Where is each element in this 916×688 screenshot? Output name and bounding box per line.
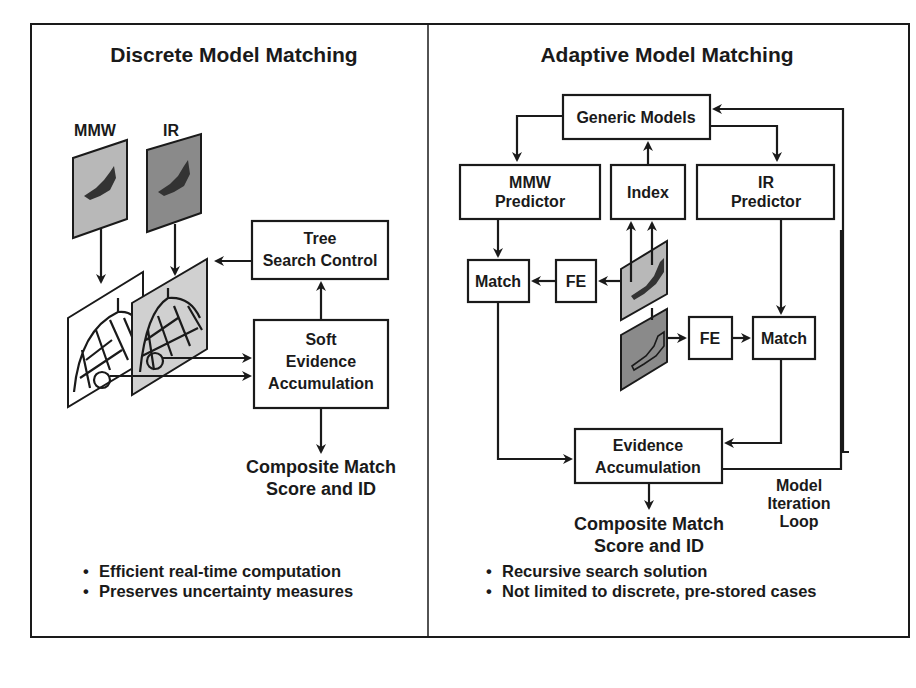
- match-right-label: Match: [761, 330, 807, 347]
- evidence-label-2: Accumulation: [595, 459, 701, 476]
- fe-left-label: FE: [566, 273, 587, 290]
- loop-label-2: Iteration: [767, 495, 830, 512]
- tree-search-label-2: Search Control: [263, 252, 378, 269]
- bullet-icon: •: [83, 562, 89, 580]
- left-bullet-2: Preserves uncertainty measures: [99, 582, 353, 600]
- left-panel-title: Discrete Model Matching: [110, 43, 357, 66]
- left-panel: Discrete Model Matching MMW IR Tr: [68, 43, 396, 600]
- diagram-canvas: Discrete Model Matching MMW IR Tr: [0, 0, 916, 688]
- mmw-predictor-label-1: MMW: [509, 174, 552, 191]
- soft-evidence-label-3: Accumulation: [268, 375, 374, 392]
- fe-right-label: FE: [700, 330, 721, 347]
- soft-evidence-label-1: Soft: [305, 331, 337, 348]
- mmw-label: MMW: [74, 122, 117, 139]
- generic-to-ir-arrow: [710, 126, 777, 160]
- mmw-sensor-image-right: [621, 241, 667, 320]
- bullet-icon: •: [83, 582, 89, 600]
- match-left-to-evidence-arrow: [498, 302, 571, 459]
- left-bullet-1: Efficient real-time computation: [99, 562, 341, 580]
- bullet-icon: •: [486, 582, 492, 600]
- right-bullet-list: • Recursive search solution • Not limite…: [486, 562, 817, 600]
- tree-search-label-1: Tree: [304, 230, 337, 247]
- bullet-icon: •: [486, 562, 492, 580]
- left-bullet-list: • Efficient real-time computation • Pres…: [83, 562, 353, 600]
- right-bullet-2: Not limited to discrete, pre-stored case…: [502, 582, 817, 600]
- right-panel-title: Adaptive Model Matching: [540, 43, 793, 66]
- left-output-label-1: Composite Match: [246, 457, 396, 477]
- right-panel: Adaptive Model Matching Generic Models M…: [460, 43, 849, 600]
- ir-sensor-image: [147, 134, 201, 232]
- ir-sensor-image-right: [621, 309, 667, 390]
- ir-predictor-label-2: Predictor: [731, 193, 801, 210]
- index-label: Index: [627, 184, 669, 201]
- mmw-sensor-image: [73, 140, 127, 238]
- right-output-label-2: Score and ID: [594, 536, 704, 556]
- evidence-label-1: Evidence: [613, 437, 683, 454]
- match-right-to-evidence-arrow: [726, 359, 781, 443]
- generic-models-label: Generic Models: [576, 109, 695, 126]
- right-bullet-1: Recursive search solution: [502, 562, 707, 580]
- loop-label-1: Model: [776, 477, 822, 494]
- generic-to-mmw-arrow: [517, 116, 563, 160]
- ir-predictor-label-1: IR: [758, 174, 774, 191]
- match-left-label: Match: [475, 273, 521, 290]
- mmw-predictor-label-2: Predictor: [495, 193, 565, 210]
- ir-label: IR: [163, 122, 179, 139]
- loop-label-3: Loop: [779, 513, 818, 530]
- left-output-label-2: Score and ID: [266, 479, 376, 499]
- right-output-label-1: Composite Match: [574, 514, 724, 534]
- soft-evidence-label-2: Evidence: [286, 353, 356, 370]
